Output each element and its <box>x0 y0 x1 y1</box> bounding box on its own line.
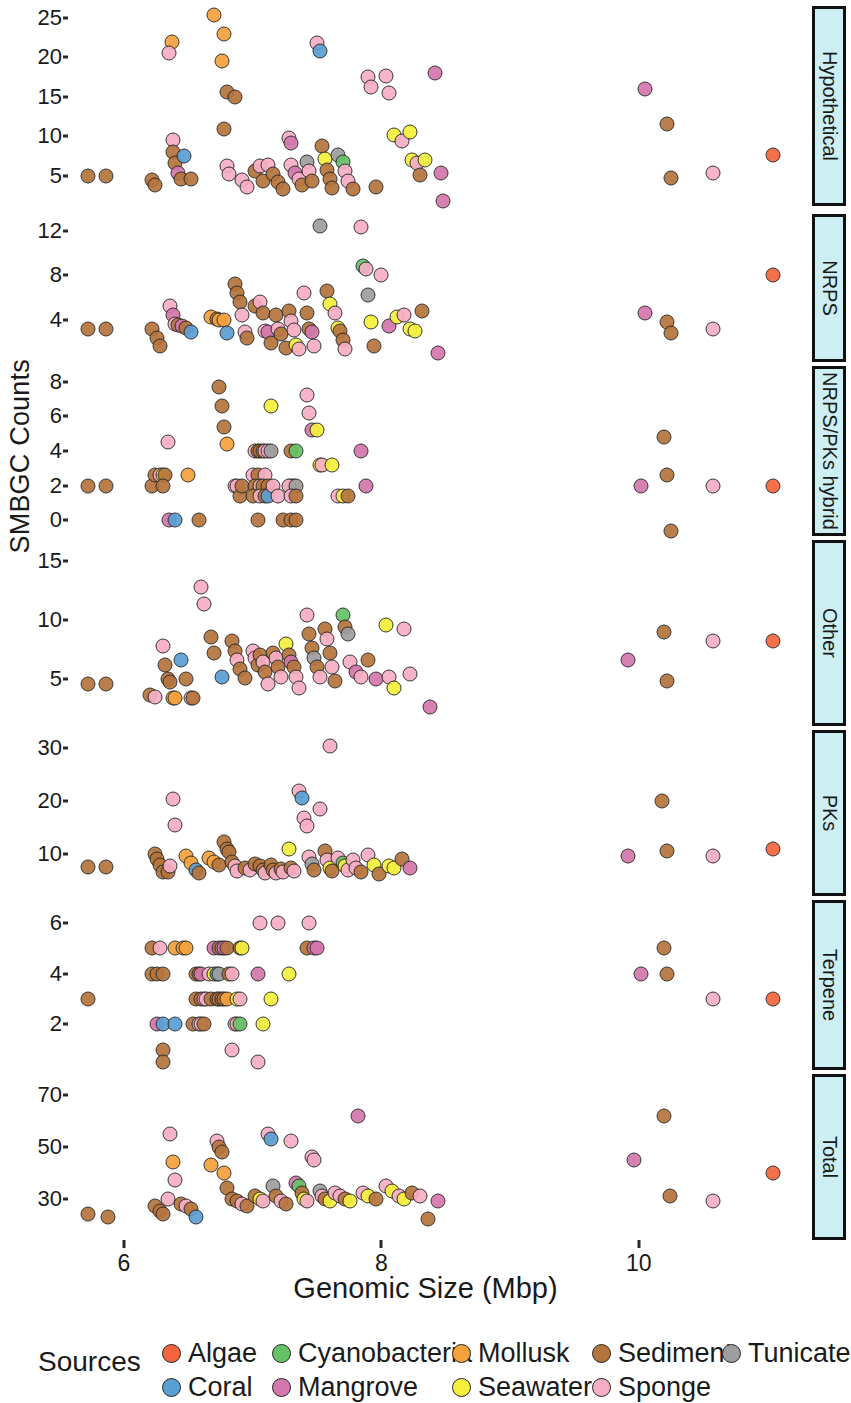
data-point <box>80 676 95 691</box>
y-tick-group: 51015 <box>0 540 62 726</box>
legend: Sources AlgaeCyanobacteriaMolluskSedimen… <box>0 1330 851 1400</box>
data-point <box>322 738 337 753</box>
y-tick-label: 20 <box>38 788 62 814</box>
data-point <box>765 634 780 649</box>
data-point <box>253 915 268 930</box>
data-point <box>660 116 675 131</box>
panel-strip-text: NRPS/PKs hybrid <box>818 372 841 530</box>
data-point <box>433 165 448 180</box>
legend-item[interactable]: Algae <box>162 1338 257 1369</box>
data-point <box>366 339 381 354</box>
data-point <box>98 321 113 336</box>
data-point <box>286 863 301 878</box>
data-point <box>428 66 443 81</box>
plot-area <box>66 900 806 1070</box>
data-point <box>155 1207 170 1222</box>
data-point <box>353 444 368 459</box>
data-point <box>374 268 389 283</box>
legend-item-label: Mollusk <box>478 1338 570 1369</box>
legend-item[interactable]: Mangrove <box>272 1372 418 1403</box>
data-point <box>302 915 317 930</box>
y-tick-group: 305070 <box>0 1074 62 1240</box>
data-point <box>304 324 319 339</box>
data-point <box>163 675 178 690</box>
data-point <box>289 513 304 528</box>
data-point <box>232 991 247 1006</box>
data-point <box>173 653 188 668</box>
plot-area <box>66 730 806 896</box>
data-point <box>325 180 340 195</box>
data-point <box>706 1194 721 1209</box>
data-point <box>291 341 306 356</box>
data-point <box>765 841 780 856</box>
data-point <box>207 8 222 23</box>
data-point <box>165 791 180 806</box>
y-tick-group: 246 <box>0 900 62 1070</box>
legend-item[interactable]: Sponge <box>592 1372 711 1403</box>
data-point <box>412 1188 427 1203</box>
legend-item-label: Cyanobacteria <box>298 1338 472 1369</box>
x-axis-title: Genomic Size (Mbp) <box>0 1272 851 1305</box>
data-point <box>634 966 649 981</box>
data-point <box>152 339 167 354</box>
legend-item[interactable]: Seawater <box>452 1372 592 1403</box>
data-point <box>297 286 312 301</box>
panel-nrps-pks-hybrid: 02468 <box>66 366 806 536</box>
data-point <box>379 617 394 632</box>
data-point <box>706 321 721 336</box>
data-point <box>158 657 173 672</box>
data-point <box>299 1194 314 1209</box>
legend-item[interactable]: Mollusk <box>452 1338 570 1369</box>
y-tick-label: 8 <box>50 369 62 395</box>
data-point <box>163 1126 178 1141</box>
data-point <box>237 670 252 685</box>
data-point <box>626 1152 641 1167</box>
panel-strip-text: Other <box>818 608 841 658</box>
legend-swatch-icon <box>722 1344 741 1363</box>
legend-item[interactable]: Coral <box>162 1372 253 1403</box>
data-point <box>304 174 319 189</box>
y-tick-label: 4 <box>50 961 62 987</box>
panel-strip-text: Hypothetical <box>818 51 841 161</box>
y-tick-label: 10 <box>38 607 62 633</box>
data-point <box>299 306 314 321</box>
panel-pks: 102030 <box>66 730 806 896</box>
data-point <box>217 419 232 434</box>
data-point <box>80 1207 95 1222</box>
legend-item[interactable]: Tunicate <box>722 1338 851 1369</box>
data-point <box>284 135 299 150</box>
data-point <box>387 681 402 696</box>
data-point <box>101 1209 116 1224</box>
data-point <box>289 444 304 459</box>
legend-title: Sources <box>38 1346 141 1378</box>
data-point <box>273 669 288 684</box>
data-point <box>250 966 265 981</box>
data-point <box>217 1165 232 1180</box>
data-point <box>178 941 193 956</box>
data-point <box>299 388 314 403</box>
data-point <box>214 398 229 413</box>
legend-item[interactable]: Sediment <box>592 1338 732 1369</box>
data-point <box>327 674 342 689</box>
data-point <box>657 624 672 639</box>
data-point <box>194 580 209 595</box>
legend-swatch-icon <box>452 1378 471 1397</box>
data-point <box>364 80 379 95</box>
data-point <box>706 478 721 493</box>
data-point <box>263 991 278 1006</box>
data-point <box>276 181 291 196</box>
data-point <box>183 172 198 187</box>
data-point <box>98 860 113 875</box>
data-point <box>80 860 95 875</box>
data-point <box>382 85 397 100</box>
y-tick-label: 25 <box>38 5 62 31</box>
legend-item[interactable]: Cyanobacteria <box>272 1338 472 1369</box>
data-point <box>312 802 327 817</box>
legend-swatch-icon <box>272 1378 291 1397</box>
data-point <box>358 261 373 276</box>
data-point <box>657 430 672 445</box>
data-point <box>325 660 340 675</box>
data-point <box>212 379 227 394</box>
y-tick-group: 02468 <box>0 366 62 536</box>
